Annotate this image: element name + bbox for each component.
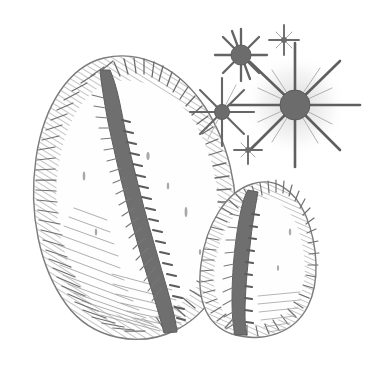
star-small-upper-core	[281, 37, 287, 43]
star-medium-upper-core	[231, 45, 251, 65]
star-medium-left-core	[215, 105, 230, 120]
star-small-lower-core	[245, 147, 251, 153]
star-medium-upper	[215, 29, 267, 81]
small-cowrie-shell	[190, 170, 330, 350]
star-large-core	[280, 90, 310, 120]
illustration-canvas: Two Cowrie Shells with Star Cluster	[0, 0, 384, 370]
cowrie-shells-illustration	[0, 0, 384, 370]
